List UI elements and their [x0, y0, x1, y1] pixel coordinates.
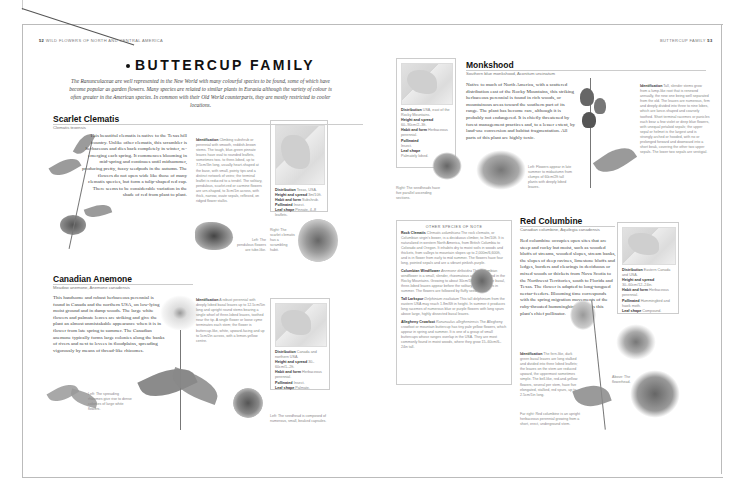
- distribution-map: [275, 303, 327, 347]
- red-columbine-identification: Identification The fern-like, dark green…: [520, 352, 580, 398]
- info-value: Texas, USA.: [297, 188, 317, 192]
- caption-monkshood-right: Right: The seedheads have five parallel …: [396, 186, 441, 201]
- caption-monkshood-left: Left: Flowers appear in late summer to m…: [528, 165, 573, 190]
- infobox-scarlet-clematis: Distribution Texas, USA. Height and spre…: [270, 120, 328, 212]
- clematis-scrambling-illustration: [298, 218, 338, 263]
- other-species-item: Allegheny Crowfoot Ranunculus alleghenie…: [401, 320, 507, 350]
- canadian-anemone-body: This handsome and robust herbaceous pere…: [53, 295, 165, 354]
- distribution-map: [401, 63, 453, 105]
- latin-name: Meadow anemone, Anemone canadensis: [53, 285, 130, 290]
- other-species-title: OTHER SPECIES OF NOTE: [401, 225, 507, 230]
- species-name: Rock Clematis: [401, 231, 426, 235]
- info-label: Leaf shape: [401, 149, 420, 153]
- right-page-header: BUTTERCUP FAMILY 53: [660, 38, 713, 43]
- identification-label: Identification: [520, 352, 542, 356]
- scarlet-clematis-body: This beautiful clematis is native to the…: [82, 133, 187, 199]
- red-columbine-body: Red columbine occupies open sites that a…: [520, 238, 616, 317]
- info-value: Palmately lobed.: [401, 154, 428, 158]
- scarlet-clematis-identification: Identification Climbing subshrub or pere…: [196, 138, 264, 204]
- info-value: Palmate.: [295, 386, 310, 390]
- identification-text: Tall, slender stems grow from a lump-lik…: [640, 84, 710, 154]
- info-label: Leaf shape: [622, 309, 641, 313]
- species-latin: Clematis columbiana: [427, 231, 460, 235]
- caption-anemone-seedhead: Left: The seedhead is composed of numero…: [270, 414, 330, 424]
- caption-clematis-left: Left: The pendulous flowers are tube-lik…: [236, 238, 266, 253]
- info-value: 60–90cm/2–3ft.: [401, 123, 426, 127]
- info-label: Distribution: [275, 350, 296, 354]
- info-label: Habit and form: [401, 128, 427, 132]
- canadian-anemone-identification: Identification A robust perennial with d…: [196, 298, 266, 344]
- species-latin: Delphinium exaltatum: [424, 297, 459, 301]
- left-page-header: 52 WILD FLOWERS OF NORTH AND CENTRAL AME…: [39, 38, 163, 43]
- species-name: Columbian Windflower: [401, 269, 440, 273]
- species-text: The rock clematis, or Columbian virgin's…: [401, 231, 504, 265]
- columbine-flowerhead-illustration: [616, 324, 656, 360]
- info-value: Insect.: [294, 381, 305, 385]
- section-title-monkshood: Monkshood: [466, 60, 514, 70]
- info-label: Pollinated: [622, 299, 640, 303]
- anemone-flower-illustration: [160, 295, 200, 331]
- info-label: Leaf shape: [275, 208, 294, 212]
- monkshood-flower-illustration: [580, 88, 594, 106]
- infobox-red-columbine: Distribution Eastern Canada and USA. Hei…: [617, 222, 679, 314]
- monkshood-identification: Identification Tall, slender stems grow …: [640, 84, 710, 155]
- other-species-item: Tall Larkspur Delphinium exaltatum This …: [401, 297, 507, 317]
- species-latin: Anemone deltoidea: [441, 269, 472, 273]
- other-species-item: Rock Clematis Clematis columbiana The ro…: [401, 231, 507, 266]
- info-label: Pollinated: [275, 203, 293, 207]
- species-text: The Allegheny crowfoot or mountain butte…: [401, 320, 506, 349]
- infobox-canadian-anemone: Distribution Canada and northern USA. He…: [270, 298, 330, 390]
- info-label: Habit and form: [275, 370, 301, 374]
- info-label: Pollinated: [401, 139, 419, 143]
- caption-anemone-left: Left: The spreading rhizomes give rise t…: [88, 392, 133, 412]
- info-value: Insect.: [294, 203, 305, 207]
- latin-name: Canadian columbine, Aquilegia canadensis: [520, 227, 600, 232]
- section-title-scarlet-clematis: Scarlet Clematis: [53, 114, 119, 124]
- caption-columbine-far-right: Far right: Red columbine is an upright h…: [520, 412, 582, 427]
- species-name: Allegheny Crowfoot: [401, 320, 435, 324]
- latin-name: Southern blue monkshood, Aconitum uncina…: [466, 71, 555, 76]
- page-number: 53: [707, 38, 712, 43]
- identification-label: Identification: [640, 84, 662, 88]
- distribution-map: [275, 125, 325, 185]
- info-label: Distribution: [401, 108, 422, 112]
- info-value: 30–60cm/12–24in.: [622, 283, 652, 287]
- identification-text: A robust perennial with deeply lobed bas…: [196, 298, 265, 343]
- info-value: Compound.: [642, 309, 661, 313]
- latin-name: Clematis texensis: [53, 125, 86, 130]
- monkshood-flower-illustration: [582, 112, 596, 128]
- info-label: Height and spread: [275, 360, 307, 364]
- monkshood-flower-illustration: [594, 98, 606, 114]
- anemone-seedhead-illustration: [233, 388, 263, 418]
- monkshood-plant-illustration: [476, 150, 526, 190]
- info-value: 3m/10ft.: [308, 193, 321, 197]
- rock-clematis-illustration: [470, 268, 494, 294]
- page-number: 52: [39, 38, 44, 43]
- identification-label: Identification: [196, 138, 218, 142]
- running-title: BUTTERCUP FAMILY: [660, 38, 706, 43]
- caption-clematis-right: Right: The scarlet clematis has a scramb…: [270, 228, 295, 253]
- running-title: WILD FLOWERS OF NORTH AND CENTRAL AMERIC…: [46, 38, 163, 43]
- info-label: Distribution: [622, 268, 643, 272]
- info-label: Habit and form: [622, 288, 648, 292]
- identification-text: Climbing subshrub or perennial with smoo…: [196, 138, 262, 203]
- other-species-box: OTHER SPECIES OF NOTE Rock Clematis Clem…: [396, 220, 512, 385]
- frame-edge-right: [721, 24, 722, 474]
- info-label: Habit and form: [275, 198, 301, 202]
- distribution-map: [622, 227, 676, 265]
- info-label: Height and spread: [622, 278, 654, 282]
- species-name: Tall Larkspur: [401, 297, 423, 301]
- info-value: Subshrub.: [302, 198, 319, 202]
- identification-text: The fern-like, dark green basal leaves a…: [520, 352, 578, 397]
- species-latin: Ranunculus allegheniensis: [436, 320, 479, 324]
- info-value: Insect.: [401, 144, 412, 148]
- columbine-plant-illustration: [630, 370, 680, 418]
- monkshood-body: Native to much of North America, with a …: [466, 82, 576, 141]
- clematis-bell-illustration: [195, 222, 233, 250]
- section-title-red-columbine: Red Columbine: [520, 216, 582, 226]
- info-label: Height and spread: [401, 118, 433, 122]
- intro-paragraph: The Ranunculaceae are well represented i…: [68, 77, 333, 109]
- info-label: Leaf shape: [275, 386, 294, 390]
- info-label: Pollinated: [275, 381, 293, 385]
- info-label: Distribution: [275, 188, 296, 192]
